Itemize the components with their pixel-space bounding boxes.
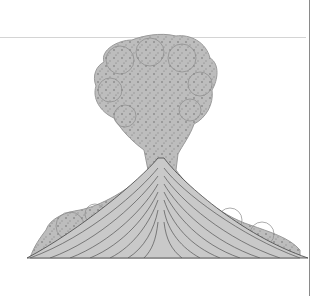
volcano-cone [27,158,308,258]
volcano-ash-flow-diagram [0,0,311,296]
